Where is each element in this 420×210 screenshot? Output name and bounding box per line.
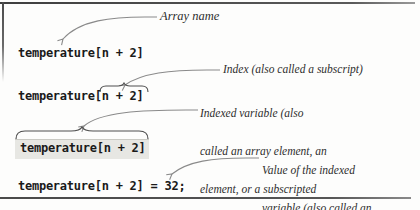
indexed-variable-overbrace xyxy=(16,127,148,139)
label-value-line1: Value of the indexed xyxy=(262,164,372,177)
label-value-line2: variable (also called an xyxy=(262,202,372,210)
label-indexed-variable-line1: Indexed variable (also xyxy=(200,107,327,120)
figure-border-top xyxy=(0,2,415,4)
code-line-indexed-variable: temperature[n + 2] xyxy=(20,141,146,155)
array-name-arrow xyxy=(63,17,157,39)
label-array-name: Array name xyxy=(160,10,219,23)
code-line-assignment: temperature[n + 2] = 32; xyxy=(18,179,185,193)
code-line-index: temperature[n + 2] xyxy=(18,89,144,103)
array-terminology-figure: temperature[n + 2] temperature[n + 2] te… xyxy=(0,0,420,210)
figure-border-left xyxy=(2,2,4,82)
label-value: Value of the indexed variable (also call… xyxy=(262,138,372,210)
indexed-variable-arrow xyxy=(84,110,198,126)
label-index: Index (also called a subscript) xyxy=(223,63,363,76)
code-line-array-name: temperature[n + 2] xyxy=(18,46,144,60)
